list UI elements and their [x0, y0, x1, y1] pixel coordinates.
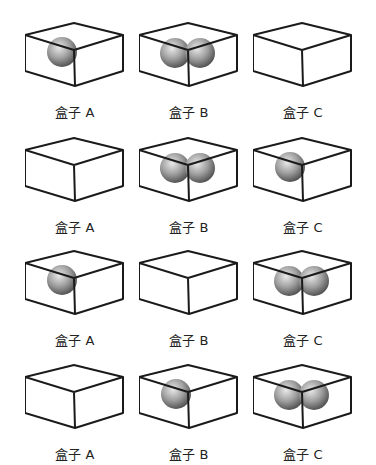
box-cell: 盒子 A [25, 364, 145, 465]
box-icon [139, 137, 239, 207]
box-icon [25, 364, 125, 434]
box-label: 盒子 C [253, 444, 353, 463]
box-icon [139, 22, 239, 92]
box-cell: 盒子 C [253, 22, 373, 132]
box-label: 盒子 A [25, 330, 125, 349]
box-cell: 盒子 C [253, 250, 373, 360]
ball-icon [161, 379, 191, 409]
box-icon [253, 250, 353, 320]
box-icon [253, 364, 353, 434]
ball-icon [47, 265, 77, 295]
box-label: 盒子 B [139, 217, 239, 236]
box-label: 盒子 C [253, 102, 353, 121]
box-label: 盒子 B [139, 330, 239, 349]
box-cell: 盒子 B [139, 22, 259, 132]
box-label: 盒子 A [25, 102, 125, 121]
box-cell: 盒子 A [25, 22, 145, 132]
box-label: 盒子 C [253, 330, 353, 349]
box-cell: 盒子 B [139, 137, 259, 247]
box-label: 盒子 A [25, 217, 125, 236]
ball-icon [47, 37, 77, 67]
box-icon [139, 250, 239, 320]
box-cell: 盒子 C [253, 364, 373, 465]
box-icon [139, 364, 239, 434]
box-label: 盒子 B [139, 102, 239, 121]
box-icon [253, 137, 353, 207]
box-icon [25, 22, 125, 92]
box-icon [25, 137, 125, 207]
box-icon [253, 22, 353, 92]
box-cell: 盒子 A [25, 137, 145, 247]
box-cell: 盒子 C [253, 137, 373, 247]
box-label: 盒子 A [25, 444, 125, 463]
box-icon [25, 250, 125, 320]
ball-icon [275, 152, 305, 182]
box-cell: 盒子 B [139, 250, 259, 360]
box-cell: 盒子 B [139, 364, 259, 465]
box-cell: 盒子 A [25, 250, 145, 360]
box-label: 盒子 C [253, 217, 353, 236]
box-label: 盒子 B [139, 444, 239, 463]
